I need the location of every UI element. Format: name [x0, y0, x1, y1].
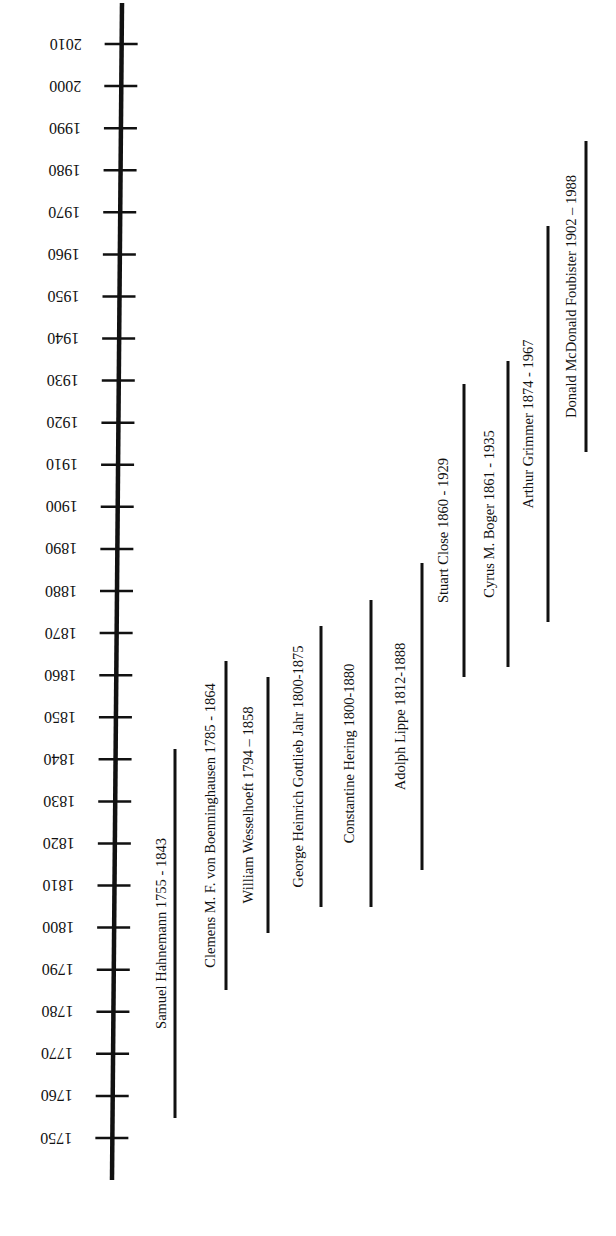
- tick-label: 1750: [40, 1130, 72, 1147]
- tick-label: 1930: [47, 372, 79, 389]
- tick-label: 1900: [46, 498, 78, 515]
- tick-label: 1850: [44, 709, 76, 726]
- timeline-svg: 1750176017701780179018001810182018301840…: [0, 0, 616, 1236]
- tick-label: 1810: [43, 877, 75, 894]
- tick-label: 1780: [41, 1003, 73, 1020]
- tick-label: 2010: [50, 36, 82, 53]
- lifespan-label: William Wesselhoeft 1794 – 1858: [240, 707, 256, 904]
- tick-label: 1860: [44, 667, 76, 684]
- tick-label: 1790: [42, 961, 74, 978]
- lifespan-label: Cyrus M. Boger 1861 - 1935: [481, 430, 497, 598]
- lifespan-label: Constantine Hering 1800-1880: [341, 664, 357, 844]
- lifespan-bars: [175, 141, 586, 1118]
- tick-label: 1910: [46, 456, 78, 473]
- tick-label: 1820: [43, 835, 75, 852]
- tick-label: 1880: [45, 583, 77, 600]
- tick-label: 1980: [49, 162, 81, 179]
- tick-label: 1890: [45, 540, 77, 557]
- timeline-chart: 1750176017701780179018001810182018301840…: [0, 0, 616, 1236]
- lifespan-label: Arthur Grimmer 1874 - 1967: [520, 339, 536, 508]
- lifespan-label: Donald McDonald Foubister 1902 – 1988: [563, 175, 579, 418]
- tick-label: 1800: [42, 919, 74, 936]
- axis-ticks: 1750176017701780179018001810182018301840…: [40, 36, 137, 1147]
- tick-label: 2000: [49, 78, 81, 95]
- lifespan-labels: Samuel Hahnemann 1755 - 1843Clemens M. F…: [153, 175, 579, 1029]
- tick-label: 1870: [45, 625, 77, 642]
- tick-label: 1970: [48, 204, 80, 221]
- lifespan-label: Samuel Hahnemann 1755 - 1843: [153, 838, 169, 1029]
- tick-label: 1940: [47, 330, 79, 347]
- tick-label: 1830: [43, 793, 75, 810]
- lifespan-label: Adolph Lippe 1812-1888: [392, 643, 408, 790]
- tick-label: 1960: [48, 246, 80, 263]
- tick-label: 1950: [48, 288, 80, 305]
- lifespan-label: Clemens M. F. von Boenninghausen 1785 - …: [202, 683, 218, 968]
- lifespan-label: George Heinrich Gottlieb Jahr 1800-1875: [290, 645, 306, 887]
- tick-label: 1770: [41, 1045, 73, 1062]
- lifespan-label: Stuart Close 1860 - 1929: [435, 458, 451, 603]
- tick-label: 1840: [44, 751, 76, 768]
- tick-label: 1920: [46, 414, 78, 431]
- tick-label: 1990: [49, 120, 81, 137]
- tick-label: 1760: [41, 1087, 73, 1104]
